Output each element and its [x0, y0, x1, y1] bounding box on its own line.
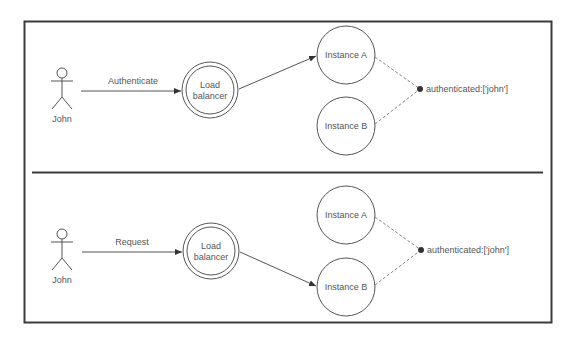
actor-label: John	[52, 275, 72, 285]
instance-a-label: Instance A	[325, 210, 367, 220]
actor-label: John	[52, 114, 72, 124]
route-arrow-to-instance-b	[240, 252, 316, 286]
request-arrow-label: Authenticate	[108, 76, 158, 86]
shared-state-link-b	[375, 250, 421, 285]
shared-state-label: authenticated:['john']	[427, 245, 509, 255]
instance-b-node: Instance B	[317, 97, 375, 155]
shared-state-dot-icon	[418, 247, 424, 253]
shared-state-link-b	[375, 89, 420, 124]
load-balancer-node: Load balancer	[183, 223, 239, 279]
diagram-canvas: John Authenticate Load balancer Instance…	[0, 0, 577, 339]
load-balancer-label-line2: balancer	[194, 252, 229, 262]
actor-john	[51, 229, 73, 270]
actor-head-icon	[57, 229, 67, 239]
load-balancer-label-line2: balancer	[193, 91, 228, 101]
load-balancer-label-line1: Load	[200, 80, 220, 90]
actor-head-icon	[57, 68, 67, 78]
shared-state-label: authenticated:['john']	[426, 84, 508, 94]
instance-b-label: Instance B	[325, 282, 368, 292]
route-arrow-to-instance-a	[239, 56, 316, 89]
panel-bottom: John Request Load balancer Instance A In…	[51, 186, 509, 316]
instance-a-label: Instance A	[325, 50, 367, 60]
load-balancer-label-line1: Load	[201, 241, 221, 251]
instance-a-node: Instance A	[317, 26, 375, 84]
instance-b-node: Instance B	[317, 258, 375, 316]
instance-a-node: Instance A	[317, 186, 375, 244]
shared-state-link-a	[375, 57, 420, 89]
shared-state-dot-icon	[417, 86, 423, 92]
panel-top: John Authenticate Load balancer Instance…	[51, 26, 508, 155]
load-balancer-node: Load balancer	[182, 62, 238, 118]
actor-john	[51, 68, 73, 109]
instance-b-label: Instance B	[325, 121, 368, 131]
shared-state-link-a	[375, 217, 421, 250]
request-arrow-label: Request	[115, 237, 149, 247]
